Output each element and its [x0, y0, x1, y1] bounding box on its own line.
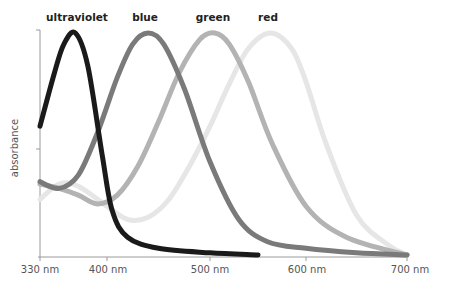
absorbance-chart	[0, 0, 452, 292]
x-tick-500: 500 nm	[191, 264, 229, 275]
y-axis-label: absorbance	[9, 119, 20, 177]
curve-blue	[40, 33, 407, 255]
x-axis-ticks	[40, 257, 407, 261]
label-ultraviolet: ultraviolet	[46, 11, 108, 23]
x-tick-600: 600 nm	[288, 264, 326, 275]
absorbance-curves	[40, 32, 407, 255]
label-green: green	[196, 11, 230, 23]
x-tick-330: 330 nm	[21, 264, 59, 275]
label-blue: blue	[132, 11, 158, 23]
label-red: red	[258, 11, 278, 23]
x-tick-700: 700 nm	[391, 264, 429, 275]
x-tick-400: 400 nm	[89, 264, 127, 275]
